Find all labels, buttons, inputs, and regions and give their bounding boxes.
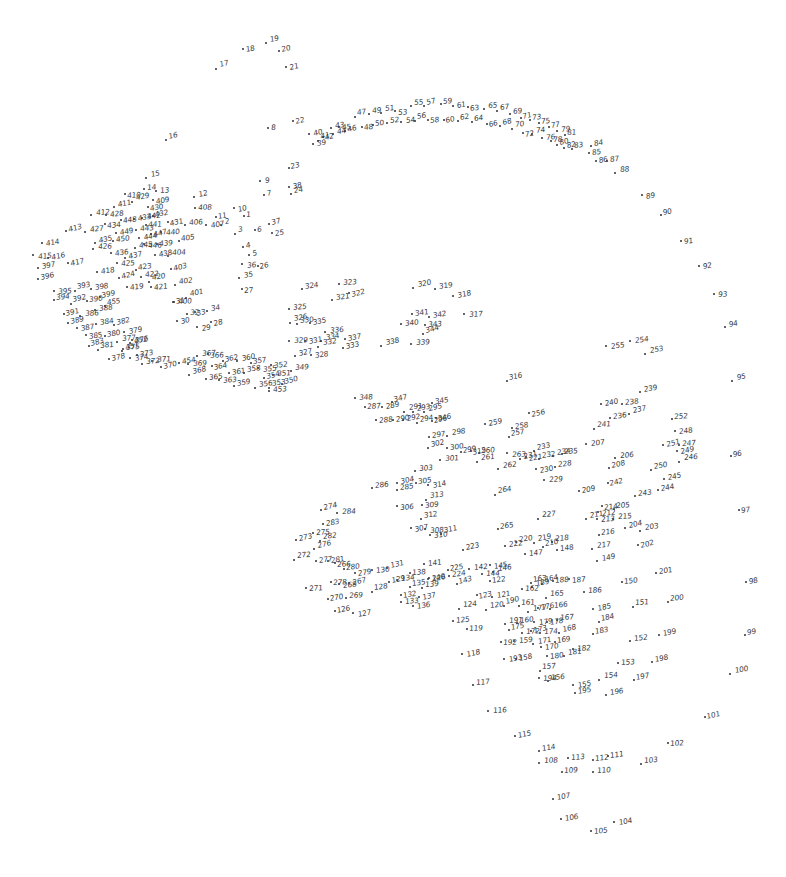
dot-number-label: 275 xyxy=(316,528,330,536)
dot-mark xyxy=(309,322,311,324)
dot-number-label: 154 xyxy=(604,671,618,679)
dot-mark xyxy=(452,295,454,297)
dot-mark xyxy=(556,549,558,551)
dot-mark xyxy=(151,360,153,362)
dot-number-label: 23 xyxy=(290,161,300,170)
dot-number-label: 94 xyxy=(729,320,738,329)
dot-number-label: 450 xyxy=(116,235,129,244)
dot-mark xyxy=(605,345,607,347)
dot-mark xyxy=(313,548,315,550)
dot-mark xyxy=(292,120,294,122)
dot-mark xyxy=(489,564,491,566)
dot-number-label: 147 xyxy=(529,549,543,558)
dot-number-label: 33 xyxy=(196,308,206,318)
dot-mark xyxy=(731,380,733,382)
dot-number-label: 169 xyxy=(556,635,570,644)
dot-number-label: 243 xyxy=(638,489,652,498)
dot-number-label: 186 xyxy=(588,586,602,594)
dot-mark xyxy=(530,630,532,632)
dot-mark xyxy=(428,316,430,318)
dot-number-label: 29 xyxy=(201,323,210,332)
dot-mark xyxy=(319,540,321,542)
dot-number-label: 76 xyxy=(546,133,555,141)
dot-mark xyxy=(650,469,652,471)
dot-mark xyxy=(94,242,96,244)
dot-number-label: 362 xyxy=(224,353,238,363)
dot-mark xyxy=(598,534,600,536)
dot-number-label: 80 xyxy=(559,136,569,146)
dot-mark xyxy=(521,588,523,590)
dot-number-label: 448 xyxy=(123,215,137,224)
dot-mark xyxy=(122,348,124,350)
dot-mark xyxy=(427,447,429,449)
dot-number-label: 359 xyxy=(236,378,250,388)
dot-mark xyxy=(508,436,510,438)
dot-number-label: 274 xyxy=(323,502,337,512)
dot-number-label: 290 xyxy=(396,414,410,424)
dot-number-label: 393 xyxy=(77,281,91,291)
dot-mark xyxy=(150,233,152,235)
dot-number-label: 208 xyxy=(611,459,625,469)
dot-number-label: 420 xyxy=(152,272,166,281)
dot-mark xyxy=(556,619,558,621)
dot-mark xyxy=(345,597,347,599)
dot-number-label: 291 xyxy=(408,402,422,411)
dot-number-label: 36 xyxy=(247,261,256,269)
dot-number-label: 265 xyxy=(499,521,513,530)
dot-number-label: 254 xyxy=(635,335,648,344)
dot-mark xyxy=(431,402,433,404)
dot-number-label: 65 xyxy=(488,102,498,110)
dot-number-label: 276 xyxy=(318,539,332,549)
dot-number-label: 445 xyxy=(139,240,153,249)
dot-number-label: 452 xyxy=(134,336,148,345)
dot-mark xyxy=(104,223,106,225)
dot-mark xyxy=(585,443,587,445)
dot-mark xyxy=(293,559,295,561)
dot-number-label: 286 xyxy=(375,480,388,489)
dot-number-label: 379 xyxy=(128,325,142,335)
dot-mark xyxy=(394,110,396,112)
dot-mark xyxy=(131,201,133,203)
dot-number-label: 305 xyxy=(418,476,431,485)
dot-mark xyxy=(205,224,207,226)
dot-mark xyxy=(317,140,319,142)
dot-number-label: 200 xyxy=(670,594,684,603)
dot-number-label: 213 xyxy=(601,514,615,523)
dot-mark xyxy=(730,455,732,457)
dot-mark xyxy=(70,303,72,305)
dot-number-label: 378 xyxy=(111,352,125,362)
dot-number-label: 41 xyxy=(320,131,329,140)
dot-mark xyxy=(218,379,220,381)
dot-number-label: 321 xyxy=(336,293,349,302)
dot-number-label: 405 xyxy=(181,234,194,243)
dot-number-label: 352 xyxy=(274,361,288,370)
dot-number-label: 145 xyxy=(494,561,508,571)
dot-mark xyxy=(422,333,424,335)
dot-number-label: 46 xyxy=(347,124,357,134)
dot-number-label: 374 xyxy=(134,353,148,363)
dot-mark xyxy=(271,232,273,234)
dot-mark xyxy=(533,450,535,452)
dot-mark xyxy=(660,214,662,216)
dot-number-label: 391 xyxy=(66,307,80,317)
dot-mark xyxy=(304,340,306,342)
dot-mark xyxy=(67,322,69,324)
dot-number-label: 138 xyxy=(412,568,426,576)
dot-mark xyxy=(129,357,131,359)
dot-number-label: 308 xyxy=(430,526,444,534)
dot-number-label: 229 xyxy=(549,475,563,483)
dot-number-label: 144 xyxy=(486,570,500,578)
dot-mark xyxy=(331,299,333,301)
dot-mark xyxy=(571,148,573,150)
dot-mark xyxy=(76,327,78,329)
dot-number-label: 283 xyxy=(326,518,340,528)
dot-number-label: 380 xyxy=(106,329,120,339)
dot-mark xyxy=(228,372,230,374)
dot-number-label: 417 xyxy=(71,257,85,267)
dot-mark xyxy=(167,221,169,223)
dot-mark xyxy=(322,136,324,138)
dot-mark xyxy=(592,608,594,610)
dot-mark xyxy=(676,450,678,452)
dot-number-label: 348 xyxy=(359,393,373,401)
dot-number-label: 337 xyxy=(348,332,362,342)
